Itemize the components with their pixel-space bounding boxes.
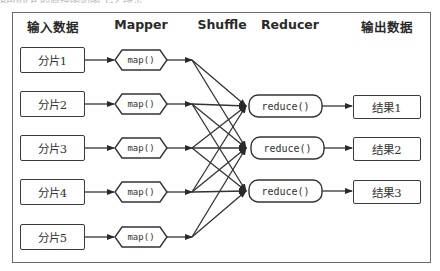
reduce-node-1: reduce() bbox=[249, 95, 322, 117]
reduce-node-3: reduce() bbox=[249, 180, 322, 202]
split-box-1: 分片1 bbox=[20, 47, 85, 73]
map-node-4: map() bbox=[115, 182, 167, 202]
map-node-3: map() bbox=[115, 138, 167, 158]
map-node-2: map() bbox=[115, 94, 167, 114]
split-box-3: 分片3 bbox=[20, 135, 85, 161]
result-box-2: 结果2 bbox=[353, 137, 421, 161]
result-box-1: 结果1 bbox=[353, 95, 421, 119]
split-box-4: 分片4 bbox=[20, 179, 85, 205]
split-box-2: 分片2 bbox=[20, 91, 85, 117]
reduce-node-2: reduce() bbox=[251, 137, 324, 159]
map-node-5: map() bbox=[115, 227, 167, 247]
map-node-1: map() bbox=[115, 50, 167, 70]
split-box-5: 分片5 bbox=[20, 224, 85, 250]
result-box-3: 结果3 bbox=[353, 180, 421, 204]
